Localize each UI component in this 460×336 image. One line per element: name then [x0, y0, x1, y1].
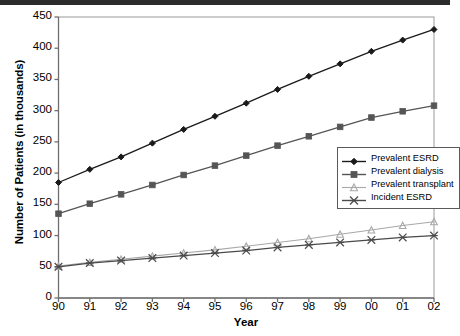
y-tick-label: 350: [18, 71, 52, 83]
y-tick-label: 300: [18, 103, 52, 115]
x-marker-icon: [341, 192, 367, 203]
triangle-marker-icon: [341, 179, 367, 190]
diamond-marker-icon: [341, 153, 367, 164]
y-tick-label: 50: [18, 259, 52, 271]
legend-label: Prevalent dialysis: [371, 166, 443, 176]
legend-item: Prevalent ESRD: [341, 153, 454, 165]
y-tick-label: 400: [18, 40, 52, 52]
x-tick-label: 98: [294, 300, 324, 312]
x-tick-label: 97: [263, 300, 293, 312]
y-tick-label: 200: [18, 165, 52, 177]
series-line: [55, 232, 438, 271]
x-tick-label: 94: [169, 300, 199, 312]
y-tick-label: 100: [18, 228, 52, 240]
legend-label: Prevalent ESRD: [371, 153, 439, 163]
y-tick-label: 250: [18, 134, 52, 146]
x-tick-label: 00: [356, 300, 386, 312]
legend-item: Prevalent transplant: [341, 179, 454, 191]
x-tick-label: 90: [44, 300, 74, 312]
x-tick-label: 91: [75, 300, 105, 312]
legend-item: Incident ESRD: [341, 192, 454, 204]
square-marker-icon: [341, 166, 367, 177]
legend-label: Incident ESRD: [371, 192, 432, 202]
legend-label: Prevalent transplant: [371, 179, 454, 189]
x-tick-label: 96: [231, 300, 261, 312]
x-tick-label: 99: [325, 300, 355, 312]
legend-item: Prevalent dialysis: [341, 166, 454, 178]
x-tick-label: 02: [419, 300, 449, 312]
y-tick-label: 450: [18, 9, 52, 21]
x-tick-label: 92: [106, 300, 136, 312]
x-tick-label: 95: [200, 300, 230, 312]
x-tick-label: 01: [388, 300, 418, 312]
x-tick-label: 93: [137, 300, 167, 312]
y-tick-label: 150: [18, 196, 52, 208]
chart-legend: Prevalent ESRDPrevalent dialysisPrevalen…: [337, 147, 460, 209]
